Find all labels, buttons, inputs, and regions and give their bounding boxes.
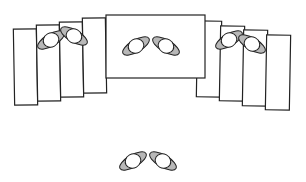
desk-left-4 — [82, 18, 106, 93]
seating-diagram — [0, 0, 306, 182]
desk-right-4 — [265, 35, 290, 110]
desks-group — [13, 15, 290, 110]
person-front-b — [147, 147, 180, 174]
person-front-a — [117, 147, 150, 174]
desk-center — [106, 15, 205, 78]
desk-left-1 — [13, 29, 37, 105]
